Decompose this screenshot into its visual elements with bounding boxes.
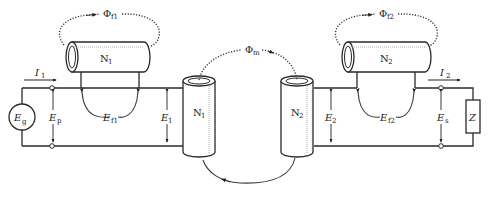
primary-terminal-top bbox=[50, 86, 55, 91]
transformer-diagram: E g I 1 E p E f1 E 1 N 1 bbox=[0, 0, 490, 198]
current-i1: I 1 bbox=[24, 67, 56, 80]
svg-text:E: E bbox=[102, 112, 111, 123]
current-i2: I 2 bbox=[428, 67, 460, 80]
flux-phi-f1: Φ f1 bbox=[59, 8, 159, 46]
load-z: Z bbox=[466, 100, 480, 133]
svg-text:2: 2 bbox=[299, 112, 303, 120]
svg-text:E: E bbox=[436, 112, 445, 123]
svg-text:2: 2 bbox=[332, 117, 336, 125]
svg-text:f1: f1 bbox=[111, 117, 118, 125]
svg-text:1: 1 bbox=[168, 117, 172, 125]
primary-circuit bbox=[22, 72, 183, 146]
coil-n1-main: N 1 bbox=[183, 76, 215, 157]
svg-text:1: 1 bbox=[201, 112, 205, 120]
source-sub: g bbox=[22, 118, 27, 126]
coil-n2-leakage: N 2 bbox=[342, 42, 431, 72]
source-label: E bbox=[13, 112, 22, 123]
svg-text:Φ: Φ bbox=[379, 8, 387, 19]
voltage-es: E s bbox=[436, 92, 454, 142]
svg-text:E: E bbox=[48, 112, 57, 123]
coil-n2-main: N 2 bbox=[281, 76, 313, 157]
flux-phi-f2: Φ f2 bbox=[335, 8, 437, 46]
source-eg: E g bbox=[9, 104, 35, 130]
svg-text:f2: f2 bbox=[388, 117, 395, 125]
svg-text:1: 1 bbox=[108, 58, 112, 66]
svg-text:2: 2 bbox=[388, 58, 392, 66]
svg-text:Φ: Φ bbox=[245, 44, 253, 55]
svg-text:Φ: Φ bbox=[103, 8, 111, 19]
svg-text:I: I bbox=[34, 67, 40, 78]
coil-n1-leakage: N 1 bbox=[66, 42, 150, 72]
secondary-terminal-top bbox=[439, 86, 444, 91]
svg-text:s: s bbox=[445, 117, 449, 125]
secondary-terminal-bottom bbox=[439, 144, 444, 149]
voltage-ep: E p bbox=[48, 92, 68, 142]
primary-terminal-bottom bbox=[50, 144, 55, 149]
svg-text:E: E bbox=[379, 112, 388, 123]
voltage-e2: E 2 bbox=[324, 92, 340, 142]
svg-text:Z: Z bbox=[468, 112, 477, 123]
svg-text:I: I bbox=[439, 67, 445, 78]
secondary-circuit bbox=[314, 72, 473, 146]
svg-text:p: p bbox=[57, 117, 62, 125]
svg-text:f1: f1 bbox=[111, 13, 118, 21]
voltage-ef1: E f1 bbox=[82, 92, 138, 125]
svg-text:m: m bbox=[253, 49, 260, 57]
voltage-ef2: E f2 bbox=[358, 92, 414, 125]
voltage-e1: E 1 bbox=[160, 92, 176, 142]
svg-text:2: 2 bbox=[446, 72, 450, 80]
svg-text:f2: f2 bbox=[387, 13, 394, 21]
svg-text:1: 1 bbox=[41, 72, 45, 80]
